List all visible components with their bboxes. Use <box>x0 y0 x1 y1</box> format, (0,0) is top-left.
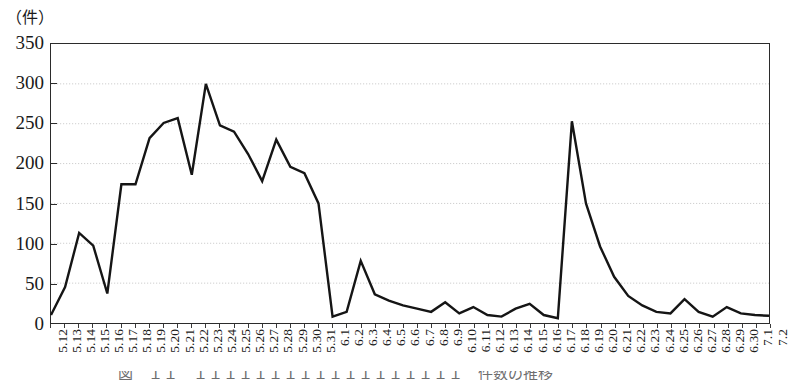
x-axis-tick-mark <box>572 324 573 328</box>
figure-caption-text: 図 １１ １１１１１１１１１１１１１１１１１１ 件数の推移 <box>118 371 553 380</box>
y-axis-tick-0: 0 <box>0 314 44 333</box>
x-axis-tick-mark <box>191 324 192 328</box>
x-axis-tick-5.13: 5.13 <box>70 329 84 353</box>
x-axis-tick-mark <box>219 324 220 328</box>
x-axis-tick-6.12: 6.12 <box>493 329 507 353</box>
x-axis-tick-6.15: 6.15 <box>536 329 550 353</box>
x-axis-tick-mark <box>177 324 178 328</box>
figure-caption-clipped: 図 １１ １１１１１１１１１１１１１１１１１１ 件数の推移 <box>0 371 784 380</box>
x-axis-tick-mark <box>488 324 489 328</box>
x-axis-tick-5.16: 5.16 <box>112 329 126 353</box>
x-axis-tick-mark <box>699 324 700 328</box>
x-axis-tick-5.25: 5.25 <box>239 329 253 353</box>
x-axis-tick-mark <box>234 324 235 328</box>
x-axis-tick-6.8: 6.8 <box>437 329 451 346</box>
x-axis-tick-mark <box>290 324 291 328</box>
x-axis-tick-5.12: 5.12 <box>56 329 70 353</box>
x-axis-tick-mark <box>318 324 319 328</box>
y-axis-tick-50: 50 <box>0 274 44 293</box>
x-axis-tick-6.22: 6.22 <box>634 329 648 353</box>
x-axis-tick-mark <box>361 324 362 328</box>
x-axis-tick-6.27: 6.27 <box>705 329 719 353</box>
series-polyline <box>51 84 769 318</box>
plot-area <box>50 43 770 324</box>
x-axis-tick-mark <box>375 324 376 328</box>
y-axis-tick-200: 200 <box>0 153 44 172</box>
x-axis-tick-7.2: 7.2 <box>776 329 790 346</box>
y-axis-tick-mark <box>50 284 57 285</box>
x-axis-tick-mark <box>50 324 51 328</box>
y-axis-tick-350: 350 <box>0 33 44 52</box>
x-axis-tick-mark <box>276 324 277 328</box>
x-axis-tick-6.24: 6.24 <box>663 329 677 353</box>
x-axis-tick-6.29: 6.29 <box>733 329 747 353</box>
y-axis-tick-300: 300 <box>0 73 44 92</box>
x-axis-tick-mark <box>135 324 136 328</box>
y-axis-tick-mark <box>50 83 57 84</box>
x-axis-tick-6.30: 6.30 <box>747 329 761 353</box>
x-axis-tick-mark <box>714 324 715 328</box>
x-axis-tick-mark <box>601 324 602 328</box>
x-axis-tick-mark <box>92 324 93 328</box>
x-axis-tick-6.9: 6.9 <box>451 329 465 346</box>
x-axis-tick-5.24: 5.24 <box>225 329 239 353</box>
x-axis-tick-mark <box>205 324 206 328</box>
x-axis-tick-mark <box>544 324 545 328</box>
x-axis-tick-5.18: 5.18 <box>140 329 154 353</box>
x-axis-tick-5.21: 5.21 <box>183 329 197 353</box>
x-axis-tick-mark <box>558 324 559 328</box>
x-axis-tick-mark <box>248 324 249 328</box>
y-axis-tick-mark <box>50 244 57 245</box>
x-axis-tick-6.14: 6.14 <box>521 329 535 353</box>
x-axis-tick-6.13: 6.13 <box>507 329 521 353</box>
x-axis-tick-5.30: 5.30 <box>310 329 324 353</box>
x-axis-tick-mark <box>304 324 305 328</box>
x-axis-tick-mark <box>643 324 644 328</box>
x-axis-tick-6.4: 6.4 <box>380 329 394 346</box>
x-axis-tick-mark <box>417 324 418 328</box>
x-axis-tick-mark <box>403 324 404 328</box>
x-axis-tick-mark <box>615 324 616 328</box>
x-axis-tick-6.5: 6.5 <box>394 329 408 346</box>
x-axis-tick-mark <box>346 324 347 328</box>
x-axis-tick-5.28: 5.28 <box>281 329 295 353</box>
x-axis-tick-6.16: 6.16 <box>550 329 564 353</box>
x-axis-tick-mark <box>64 324 65 328</box>
x-axis-tick-mark <box>389 324 390 328</box>
x-axis-tick-mark <box>530 324 531 328</box>
x-axis-tick-5.19: 5.19 <box>154 329 168 353</box>
x-axis-tick-mark <box>445 324 446 328</box>
x-axis-tick-mark <box>474 324 475 328</box>
x-axis-tick-6.21: 6.21 <box>620 329 634 353</box>
x-axis-tick-mark <box>728 324 729 328</box>
x-axis-tick-mark <box>78 324 79 328</box>
x-axis-tick-6.23: 6.23 <box>648 329 662 353</box>
x-axis-tick-5.22: 5.22 <box>197 329 211 353</box>
x-axis-tick-5.26: 5.26 <box>253 329 267 353</box>
x-axis-tick-5.15: 5.15 <box>98 329 112 353</box>
x-axis-tick-5.17: 5.17 <box>126 329 140 353</box>
x-axis-tick-mark <box>671 324 672 328</box>
y-axis-tick-mark <box>50 123 57 124</box>
y-axis-tick-100: 100 <box>0 234 44 253</box>
x-axis-tick-6.26: 6.26 <box>691 329 705 353</box>
x-axis-tick-5.20: 5.20 <box>168 329 182 353</box>
x-axis-tick-mark <box>629 324 630 328</box>
x-axis-tick-6.19: 6.19 <box>592 329 606 353</box>
x-axis-tick-6.28: 6.28 <box>719 329 733 353</box>
x-axis-tick-6.7: 6.7 <box>423 329 437 346</box>
x-axis-tick-6.17: 6.17 <box>564 329 578 353</box>
y-axis-tick-mark <box>50 204 57 205</box>
x-axis-tick-6.18: 6.18 <box>578 329 592 353</box>
x-axis-tick-6.25: 6.25 <box>677 329 691 353</box>
x-axis-tick-6.2: 6.2 <box>352 329 366 346</box>
x-axis-tick-mark <box>770 324 771 328</box>
x-axis-tick-mark <box>685 324 686 328</box>
x-axis-tick-6.3: 6.3 <box>366 329 380 346</box>
x-axis-tick-6.20: 6.20 <box>606 329 620 353</box>
x-axis-tick-6.6: 6.6 <box>408 329 422 346</box>
x-axis-tick-5.14: 5.14 <box>84 329 98 353</box>
x-axis-tick-mark <box>756 324 757 328</box>
x-axis-tick-mark <box>502 324 503 328</box>
